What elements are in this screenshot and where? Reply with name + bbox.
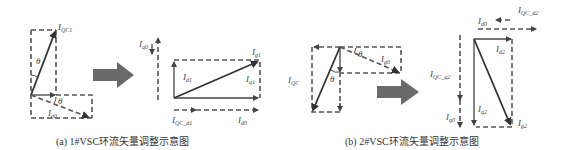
i-d0-label-b: Id0 [477, 16, 487, 27]
i-g1-label: Ig1 [251, 47, 261, 58]
panel-a-left-diagram: IQC1 θ θ Ig0 [31, 22, 92, 119]
i-qc-q2-label: IQC_q2 [429, 69, 450, 80]
theta-arc-top-b [354, 48, 356, 53]
i-qc-d1-label: IQC_d1 [171, 115, 192, 126]
i-g0-label: Ig0 [47, 108, 57, 119]
i-q1-label: Iq1 [245, 74, 255, 85]
theta-arc-top [31, 75, 38, 77]
i-qc-label: IQC [287, 75, 300, 86]
caption-panel-b: (b) 2#VSC环流矢量调整示意图 [345, 133, 479, 148]
i-qc-d2-label: IQC_d2 [517, 5, 538, 16]
caption-panel-a: (a) 1#VSC环流矢量调整示意图 [56, 133, 189, 148]
big-right-arrow-b [377, 79, 419, 105]
i-g2-label: Ig2 [517, 118, 527, 129]
i-qc-vector [313, 47, 340, 110]
i-q0-label: Iq0 [138, 39, 148, 50]
big-right-arrow-a [93, 62, 134, 88]
theta-arc-bottom-b [331, 70, 340, 72]
panel-a-right-diagram: Iq0 Ig1 Id1 Iq1 IQC_d1 Id0 [138, 38, 261, 126]
theta-arc-bottom [54, 97, 56, 103]
i-g0-label-b: Ig0 [380, 54, 390, 65]
i-d2-label: Id2 [495, 44, 505, 55]
i-q2-label: Iq2 [477, 104, 487, 115]
i-q0-label-b: Iq0 [445, 112, 455, 123]
theta-label-top-b: θ [358, 49, 363, 59]
panel-b-right-diagram: IQC_d2 Id0 Id2 Iq2 Ig2 IQC_q2 Iq0 [429, 5, 538, 129]
panel-b-left-diagram: IQC θ θ Ig0 [287, 47, 401, 112]
theta-label-bottom-b: θ [330, 74, 335, 84]
theta-label-top: θ [36, 56, 41, 66]
i-d0-label: Id0 [237, 115, 247, 126]
i-d1-label: Id1 [182, 72, 192, 83]
i-qc1-vector [31, 32, 55, 95]
vector-diagram-canvas: IQC1 θ θ Ig0 Iq0 Ig1 Id1 Iq1 IQC_d1 Id0 [0, 0, 566, 150]
theta-label-bottom: θ [58, 96, 63, 106]
i-qc1-label: IQC1 [57, 22, 72, 33]
